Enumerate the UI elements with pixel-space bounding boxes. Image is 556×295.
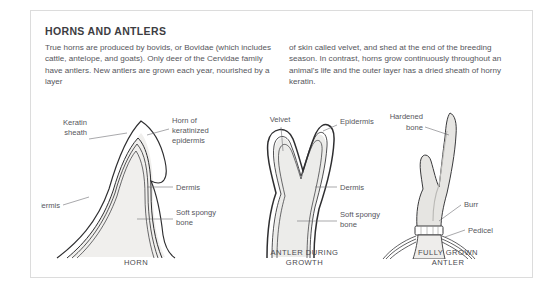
figure-caption-fully-grown-antler: FULLY GROWN ANTLER [373, 248, 523, 267]
label-dermis-growth: Dermis [340, 183, 364, 192]
label-soft-spongy-bone-growth-line2: bone [340, 220, 357, 229]
body-columns: True horns are produced by bovids, or Bo… [45, 42, 515, 88]
figure-antler-during-growth: Velvet Epidermis Dermis Soft spongy bone… [227, 109, 382, 269]
page-title: HORNS AND ANTLERS [45, 25, 523, 38]
leader-epidermis [63, 197, 89, 205]
figure-horn: Keratin sheath Horn of keratinized epide… [41, 109, 231, 269]
label-horn-keratinized-line3: epidermis [172, 136, 205, 145]
label-epidermis-growth: Epidermis [340, 117, 374, 126]
label-burr: Burr [464, 200, 479, 209]
figure-fully-grown-antler: Hardened bone Burr Pedicel FULLY GROWN A… [373, 109, 523, 269]
antler-burr-ring [415, 226, 443, 235]
horn-diagram: Keratin sheath Horn of keratinized epide… [41, 109, 231, 259]
label-epidermis: Epidermis [41, 201, 60, 210]
label-horn-keratinized-line2: keratinized [172, 126, 209, 135]
caption-growth-line2: GROWTH [286, 258, 323, 267]
label-keratin-sheath-line1: Keratin [63, 118, 87, 127]
label-keratin-sheath-line2: sheath [64, 128, 87, 137]
page-root: HORNS AND ANTLERS True horns are produce… [0, 0, 556, 295]
info-panel: HORNS AND ANTLERS True horns are produce… [30, 10, 533, 278]
caption-full-line1: FULLY GROWN [418, 248, 478, 257]
fully-grown-antler-diagram: Hardened bone Burr Pedicel [373, 109, 523, 259]
body-column-left: True horns are produced by bovids, or Bo… [45, 42, 271, 88]
label-soft-spongy-bone-line2: bone [176, 218, 193, 227]
label-soft-spongy-bone-line1: Soft spongy [176, 208, 216, 217]
body-paragraph-left: True horns are produced by bovids, or Bo… [45, 42, 271, 88]
label-horn-keratinized-line1: Horn of [172, 116, 198, 125]
body-paragraph-right: of skin called velvet, and shed at the e… [289, 42, 515, 88]
leader-keratin-sheath [89, 133, 127, 139]
panel-text-content: HORNS AND ANTLERS True horns are produce… [45, 25, 523, 88]
label-dermis: Dermis [176, 183, 200, 192]
caption-growth-line1: ANTLER DURING [271, 248, 339, 257]
figure-caption-antler-growth: ANTLER DURING GROWTH [227, 248, 382, 267]
leader-pedicel [445, 230, 465, 237]
label-pedicel: Pedicel [468, 226, 493, 235]
figure-caption-horn: HORN [41, 258, 231, 267]
antler-growth-diagram: Velvet Epidermis Dermis Soft spongy bone [227, 109, 382, 259]
label-hardened-bone-line1: Hardened [390, 112, 423, 121]
label-velvet: Velvet [270, 115, 292, 124]
label-hardened-bone-line2: bone [406, 123, 423, 132]
figures-row: Keratin sheath Horn of keratinized epide… [41, 109, 523, 269]
body-column-right: of skin called velvet, and shed at the e… [289, 42, 515, 88]
caption-full-line2: ANTLER [432, 258, 465, 267]
